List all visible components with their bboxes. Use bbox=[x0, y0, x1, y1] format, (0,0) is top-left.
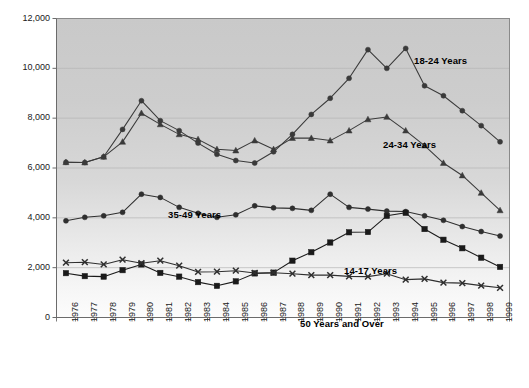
x-axis-tick-label: 1996 bbox=[447, 302, 457, 322]
x-axis-tick-label: 1983 bbox=[202, 302, 212, 322]
x-axis-tick-label: 1999 bbox=[504, 302, 514, 322]
series-label-14-17-years: 14-17 Years bbox=[344, 265, 397, 276]
series-label-18-24-years: 18-24 Years bbox=[414, 55, 467, 66]
x-axis-tick-label: 1994 bbox=[410, 302, 420, 322]
x-axis-tick-label: 1979 bbox=[127, 302, 137, 322]
x-axis-tick-label: 1977 bbox=[89, 302, 99, 322]
series-label-24-34-years: 24-34 Years bbox=[383, 139, 436, 150]
x-axis-tick-label: 1984 bbox=[221, 302, 231, 322]
x-axis-tick-label: 1978 bbox=[108, 302, 118, 322]
x-axis-tick-label: 1982 bbox=[183, 302, 193, 322]
x-axis-tick-label: 1980 bbox=[145, 302, 155, 322]
x-axis-tick-label: 1976 bbox=[70, 302, 80, 322]
x-axis-tick-label: 1998 bbox=[485, 302, 495, 322]
x-axis-tick-label: 1986 bbox=[259, 302, 269, 322]
line-chart: 02,0004,0006,0008,00010,00012,000 197619… bbox=[0, 0, 529, 388]
x-axis-tick-label: 1993 bbox=[391, 302, 401, 322]
x-axis-tick-label: 1981 bbox=[164, 302, 174, 322]
x-axis-tick-label: 1987 bbox=[278, 302, 288, 322]
series-label-50-years-and-over: 50 Years and Over bbox=[300, 318, 384, 329]
x-axis-tick-label: 1985 bbox=[240, 302, 250, 322]
x-axis-tick-label: 1995 bbox=[429, 302, 439, 322]
x-axis-tick-label: 1997 bbox=[466, 302, 476, 322]
series-label-35-49-years: 35-49 Years bbox=[168, 209, 221, 220]
